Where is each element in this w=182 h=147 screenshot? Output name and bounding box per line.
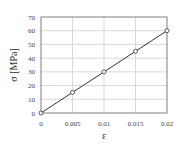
y-tick-label: 10 (28, 96, 36, 104)
x-tick-label: 0.015 (128, 120, 144, 128)
x-axis-label: ε (102, 130, 106, 141)
data-point-marker (71, 90, 75, 94)
y-tick-label: 70 (28, 14, 36, 22)
y-axis-ticks: 010203040506070 (28, 14, 36, 118)
data-point-marker (165, 29, 169, 33)
x-tick-label: 0.02 (161, 120, 174, 128)
x-tick-label: 0.005 (65, 120, 81, 128)
y-tick-label: 60 (28, 27, 36, 35)
x-tick-label: 0 (39, 120, 43, 128)
y-tick-label: 30 (28, 68, 36, 76)
data-point-marker (134, 49, 138, 53)
y-axis-label: σ [MPa] (8, 48, 19, 81)
data-point-marker (102, 70, 106, 74)
x-axis-ticks: 00.0050.010.0150.02 (39, 120, 173, 128)
gridlines (41, 17, 167, 113)
y-tick-label: 0 (32, 110, 36, 118)
y-tick-label: 20 (28, 82, 36, 90)
x-tick-label: 0.01 (98, 120, 111, 128)
data-point-marker (39, 111, 43, 115)
y-tick-label: 40 (28, 55, 36, 63)
y-tick-label: 50 (28, 41, 36, 49)
stress-strain-chart: 010203040506070 00.0050.010.0150.02 σ [M… (0, 0, 182, 147)
